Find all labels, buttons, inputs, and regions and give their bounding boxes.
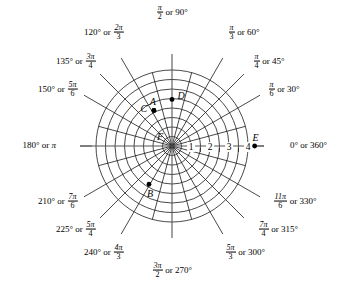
angle-label-ang-135: 135° or 3π4: [56, 53, 96, 72]
point-label-F: F: [157, 131, 163, 142]
angle-label-ang-60: π3 or 60°: [228, 24, 260, 43]
angle-label-ang-330: 11π6 or 330°: [273, 193, 317, 212]
angle-label-ang-90: π2 or 90°: [156, 4, 188, 23]
angle-label-ang-30: π6 or 30°: [268, 81, 300, 100]
radial-tick-label-4: 4: [244, 142, 252, 152]
point-label-C: C: [141, 103, 148, 114]
angle-label-ang-300: 5π3 or 300°: [225, 244, 265, 263]
angle-label-ang-270: 3π2 or 270°: [152, 262, 192, 281]
angle-label-ang-150: 150° or 5π6: [38, 81, 78, 100]
polar-grid-figure: 1234 π2 or 90°π3 or 60°π4 or 45°π6 or 30…: [0, 0, 352, 289]
radial-tick-label-3: 3: [225, 142, 233, 152]
radial-tick-label-2: 2: [206, 142, 214, 152]
angle-label-ang-120: 120° or 2π3: [84, 24, 124, 43]
angle-label-ang-210: 210° or 7π6: [38, 193, 78, 212]
angle-label-ang-45: π4 or 45°: [253, 53, 285, 72]
point-label-E: E: [253, 132, 259, 143]
radial-tick-label-1: 1: [187, 142, 195, 152]
point-label-B: B: [147, 188, 153, 199]
point-label-D: D: [177, 90, 184, 101]
point-label-A: A: [150, 96, 156, 107]
angle-label-ang-315: 7π4 or 315°: [258, 221, 298, 240]
angle-label-ang-240: 240° or 4π3: [84, 244, 124, 263]
angle-label-ang-225: 225° or 5π4: [56, 221, 96, 240]
angle-label-ang-0-360: 0° or 360°: [290, 141, 327, 150]
angle-label-ang-180: 180° or π: [22, 141, 56, 150]
